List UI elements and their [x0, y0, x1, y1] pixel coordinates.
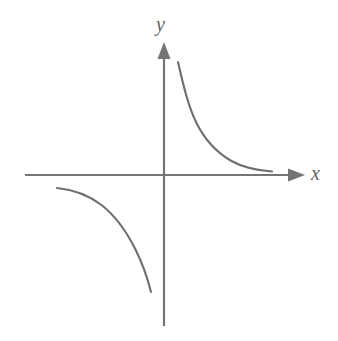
graph-canvas — [0, 0, 338, 341]
hyperbola-figure: y x — [0, 0, 338, 341]
y-axis-arrowhead — [158, 42, 171, 59]
x-axis-label: x — [311, 163, 320, 183]
hyperbola-branch-quadrant-3 — [57, 188, 151, 292]
x-axis-arrowhead — [288, 169, 305, 182]
y-axis-label: y — [156, 14, 165, 34]
hyperbola-branch-quadrant-1 — [178, 62, 272, 172]
